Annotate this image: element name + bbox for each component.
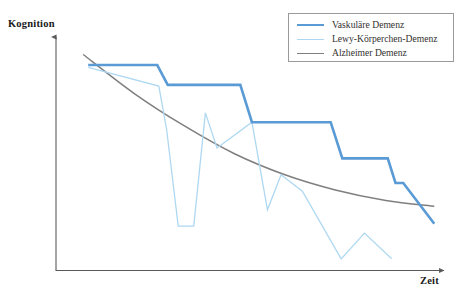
legend-item-lewy-koerperchen-demenz[interactable]: Lewy-Körperchen-Demenz [289,32,453,46]
series-line-lewy-koerperchen-demenz [88,67,391,258]
legend-item-label: Vaskuläre Demenz [332,19,404,31]
chart-container: Kognition Zeit Vaskuläre Demenz Lewy-Kör… [0,0,467,296]
legend-item-vaskulaere-demenz[interactable]: Vaskuläre Demenz [289,18,453,32]
legend-item-alzheimer-demenz[interactable]: Alzheimer Demenz [289,46,453,60]
legend-line-swatch-icon [297,53,324,54]
legend-list: Vaskuläre Demenz Lewy-Körperchen-Demenz … [289,14,453,61]
y-axis-title: Kognition [8,18,55,29]
series-line-alzheimer-demenz [83,55,434,207]
legend: Vaskuläre Demenz Lewy-Körperchen-Demenz … [288,13,454,62]
x-axis-title: Zeit [420,275,439,286]
legend-item-label: Lewy-Körperchen-Demenz [332,33,437,45]
legend-line-swatch-icon [297,24,324,26]
legend-item-label: Alzheimer Demenz [332,47,407,59]
legend-line-swatch-icon [297,39,324,40]
series-layer [83,55,434,259]
